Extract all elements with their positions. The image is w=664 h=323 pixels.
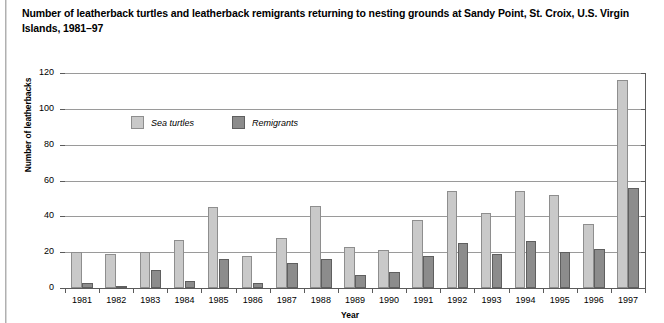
bar-remigrants-1981: [82, 283, 93, 288]
bar-sea-turtles-1981: [71, 252, 82, 288]
bar-sea-turtles-1994: [515, 191, 526, 288]
y-tick-label-100: 100: [20, 103, 54, 113]
y-tick-mark-120: [60, 73, 65, 74]
y-tick-label-120: 120: [20, 67, 54, 77]
x-tick-label-1991: 1991: [406, 295, 440, 305]
x-tick-mark-1993: [474, 288, 475, 293]
bar-remigrants-1996: [594, 249, 605, 288]
x-tick-mark-1987: [270, 288, 271, 293]
figure-container: Number of leatherback turtles and leathe…: [0, 0, 664, 323]
y-tick-mark-20: [60, 252, 65, 253]
legend: Sea turtles Remigrants: [131, 116, 298, 129]
x-tick-label-1995: 1995: [543, 295, 577, 305]
plot-area: Number of leatherbacks 020406080100120 1…: [0, 0, 664, 323]
bar-remigrants-1995: [560, 252, 571, 288]
y-tick-label-20: 20: [20, 246, 54, 256]
right-axis-line: [645, 73, 646, 289]
bar-remigrants-1994: [526, 241, 537, 288]
legend-label-remigrants: Remigrants: [252, 118, 298, 128]
bar-sea-turtles-1984: [174, 240, 185, 288]
x-tick-mark-1982: [99, 288, 100, 293]
legend-label-sea-turtles: Sea turtles: [151, 118, 194, 128]
x-tick-mark-1996: [577, 288, 578, 293]
bar-sea-turtles-1989: [344, 247, 355, 288]
x-tick-mark-1992: [440, 288, 441, 293]
x-tick-label-1997: 1997: [611, 295, 645, 305]
x-tick-label-1985: 1985: [202, 295, 236, 305]
y-tick-mark-100: [60, 109, 65, 110]
x-tick-mark-1989: [338, 288, 339, 293]
x-tick-mark-1985: [201, 288, 202, 293]
legend-swatch-icon-sea-turtles: [131, 116, 144, 129]
x-tick-label-1988: 1988: [304, 295, 338, 305]
bar-sea-turtles-1997: [617, 80, 628, 288]
bar-sea-turtles-1996: [583, 224, 594, 289]
bar-sea-turtles-1990: [378, 250, 389, 288]
x-tick-label-1984: 1984: [167, 295, 201, 305]
bar-sea-turtles-1985: [208, 207, 219, 288]
x-tick-label-1981: 1981: [65, 295, 99, 305]
gridline-60: [65, 181, 646, 182]
x-tick-label-1993: 1993: [474, 295, 508, 305]
legend-entry-sea-turtles: Sea turtles: [131, 116, 194, 129]
x-tick-mark-1983: [133, 288, 134, 293]
x-tick-label-1994: 1994: [509, 295, 543, 305]
gridline-80: [65, 145, 646, 146]
bar-sea-turtles-1982: [105, 254, 116, 288]
x-tick-mark-1997: [611, 288, 612, 293]
x-tick-label-1989: 1989: [338, 295, 372, 305]
y-tick-mark-80: [60, 145, 65, 146]
bar-remigrants-1988: [321, 259, 332, 288]
bar-remigrants-1997: [628, 188, 639, 288]
bar-remigrants-1984: [185, 281, 196, 288]
y-tick-label-80: 80: [20, 139, 54, 149]
x-tick-mark-1991: [406, 288, 407, 293]
x-tick-mark-1984: [167, 288, 168, 293]
bar-remigrants-1993: [492, 254, 503, 288]
y-tick-label-40: 40: [20, 210, 54, 220]
bar-remigrants-1986: [253, 283, 264, 288]
x-tick-mark-end: [645, 288, 646, 293]
gridline-100: [65, 109, 646, 110]
legend-entry-remigrants: Remigrants: [232, 116, 298, 129]
bar-sea-turtles-1986: [242, 256, 253, 288]
x-axis-line: [65, 288, 646, 289]
x-tick-label-1986: 1986: [236, 295, 270, 305]
x-tick-mark-1986: [236, 288, 237, 293]
bar-remigrants-1983: [151, 270, 162, 288]
x-axis-label: Year: [330, 310, 370, 320]
y-tick-label-60: 60: [20, 175, 54, 185]
gridline-120: [65, 73, 646, 74]
x-tick-label-1990: 1990: [372, 295, 406, 305]
legend-swatch-icon-remigrants: [232, 116, 245, 129]
bar-remigrants-1982: [116, 286, 127, 288]
x-tick-mark-1981: [65, 288, 66, 293]
bar-sea-turtles-1993: [481, 213, 492, 288]
x-tick-label-1992: 1992: [440, 295, 474, 305]
bar-sea-turtles-1992: [447, 191, 458, 288]
x-tick-label-1987: 1987: [270, 295, 304, 305]
bar-sea-turtles-1987: [276, 238, 287, 288]
bar-remigrants-1987: [287, 263, 298, 288]
x-tick-mark-1988: [304, 288, 305, 293]
x-tick-mark-1990: [372, 288, 373, 293]
x-tick-mark-1994: [509, 288, 510, 293]
bar-sea-turtles-1988: [310, 206, 321, 288]
bar-remigrants-1991: [423, 256, 434, 288]
x-tick-mark-1995: [543, 288, 544, 293]
bar-sea-turtles-1991: [412, 220, 423, 288]
y-tick-mark-40: [60, 216, 65, 217]
x-tick-label-1983: 1983: [133, 295, 167, 305]
bar-remigrants-1989: [355, 275, 366, 288]
y-tick-mark-60: [60, 181, 65, 182]
bar-remigrants-1985: [219, 259, 230, 288]
x-tick-label-1996: 1996: [577, 295, 611, 305]
bar-sea-turtles-1983: [140, 252, 151, 288]
x-tick-label-1982: 1982: [99, 295, 133, 305]
bar-remigrants-1992: [458, 243, 469, 288]
bar-remigrants-1990: [389, 272, 400, 288]
bar-sea-turtles-1995: [549, 195, 560, 288]
y-tick-label-0: 0: [20, 282, 54, 292]
